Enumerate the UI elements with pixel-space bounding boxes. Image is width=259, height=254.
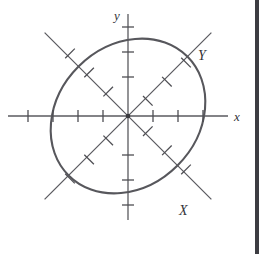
origin-point bbox=[126, 114, 131, 119]
x-axis-label: x bbox=[233, 109, 240, 124]
figure-container: x y X Y bbox=[0, 0, 259, 254]
right-margin-gap bbox=[248, 0, 255, 254]
conic-rotation-figure: x y X Y bbox=[0, 0, 259, 254]
right-page-border bbox=[255, 0, 259, 254]
x-axis bbox=[8, 110, 228, 122]
rotated-x-axis-label: X bbox=[178, 203, 188, 218]
rotated-y-axis-label: Y bbox=[198, 48, 208, 63]
y-axis-label: y bbox=[112, 8, 120, 23]
